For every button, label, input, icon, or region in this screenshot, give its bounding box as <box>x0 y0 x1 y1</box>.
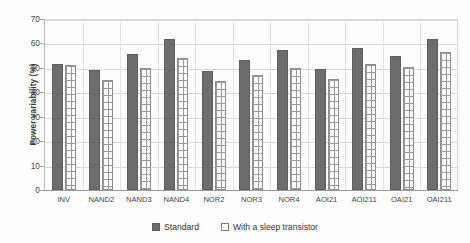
bar-sleep-transistor <box>328 79 339 190</box>
bar-group <box>233 19 271 190</box>
bar-group <box>383 19 421 190</box>
y-tickmark <box>39 92 44 93</box>
y-tick-30: 30 <box>18 112 40 122</box>
y-tick-40: 40 <box>18 87 40 97</box>
legend-label: Standard <box>164 222 199 232</box>
group-separator <box>233 19 234 190</box>
bar-sleep-transistor <box>252 75 263 190</box>
group-separator <box>158 19 159 190</box>
y-tickmark <box>39 19 44 20</box>
group-separator <box>308 19 309 190</box>
bar-group <box>270 19 308 190</box>
y-tickmark <box>39 166 44 167</box>
bar-standard <box>127 54 138 190</box>
x-tick-NAND4: NAND4 <box>158 195 196 204</box>
bar-sleep-transistor <box>290 68 301 190</box>
x-tick-NAND3: NAND3 <box>120 195 158 204</box>
bar-sleep-transistor <box>403 67 414 190</box>
bar-group <box>120 19 158 190</box>
bar-group <box>195 19 233 190</box>
y-tick-10: 10 <box>18 161 40 171</box>
bar-sleep-transistor <box>440 52 451 190</box>
bar-standard <box>89 70 100 190</box>
bar-group <box>420 19 458 190</box>
y-tick-70: 70 <box>18 14 40 24</box>
bar-standard <box>52 64 63 190</box>
bar-chart: Power variability (%) 010203040506070 IN… <box>0 0 470 243</box>
group-separator <box>345 19 346 190</box>
legend-item: With a sleep transistor <box>221 222 318 232</box>
x-tick-NOR3: NOR3 <box>233 195 271 204</box>
legend-item: Standard <box>152 222 199 232</box>
x-tick-AOI211: AOI211 <box>345 195 383 204</box>
bar-group <box>308 19 346 190</box>
legend-label: With a sleep transistor <box>233 222 318 232</box>
y-tick-0: 0 <box>18 185 40 195</box>
group-separator <box>195 19 196 190</box>
x-tick-AOI21: AOI21 <box>308 195 346 204</box>
bar-group <box>45 19 83 190</box>
bar-sleep-transistor <box>65 65 76 190</box>
bar-standard <box>315 69 326 190</box>
chart-legend: StandardWith a sleep transistor <box>0 222 470 232</box>
y-tick-50: 50 <box>18 63 40 73</box>
group-separator <box>270 19 271 190</box>
x-tick-INV: INV <box>45 195 83 204</box>
x-axis-tick-labels: INVNAND2NAND3NAND4NOR2NOR3NOR4AOI21AOI21… <box>45 195 458 209</box>
bars-layer <box>45 19 458 190</box>
y-tickmark <box>39 141 44 142</box>
bar-standard <box>277 50 288 190</box>
bar-sleep-transistor <box>365 64 376 190</box>
legend-swatch-icon <box>152 223 160 231</box>
group-separator <box>83 19 84 190</box>
bar-group <box>158 19 196 190</box>
bar-standard <box>390 56 401 190</box>
y-tickmark <box>39 68 44 69</box>
group-separator <box>420 19 421 190</box>
y-tickmark <box>39 43 44 44</box>
bar-sleep-transistor <box>215 81 226 190</box>
y-tick-20: 20 <box>18 136 40 146</box>
legend-swatch-icon <box>221 223 229 231</box>
group-separator <box>383 19 384 190</box>
x-tick-NOR2: NOR2 <box>195 195 233 204</box>
y-tickmark <box>39 190 44 191</box>
y-tick-60: 60 <box>18 38 40 48</box>
bar-sleep-transistor <box>140 68 151 190</box>
bar-standard <box>427 39 438 190</box>
bar-standard <box>352 48 363 190</box>
bar-group <box>345 19 383 190</box>
bar-group <box>83 19 121 190</box>
y-tickmark <box>39 117 44 118</box>
bar-sleep-transistor <box>102 80 113 190</box>
x-tick-OAI21: OAI21 <box>383 195 421 204</box>
x-tick-OAI211: OAI211 <box>420 195 458 204</box>
bar-standard <box>164 39 175 190</box>
bar-standard <box>239 60 250 190</box>
bar-sleep-transistor <box>177 58 188 190</box>
y-axis-tick-labels: 010203040506070 <box>18 14 40 190</box>
bar-standard <box>202 71 213 190</box>
x-tick-NOR4: NOR4 <box>270 195 308 204</box>
group-separator <box>120 19 121 190</box>
x-tick-NAND2: NAND2 <box>83 195 121 204</box>
x-axis-line <box>44 190 458 191</box>
